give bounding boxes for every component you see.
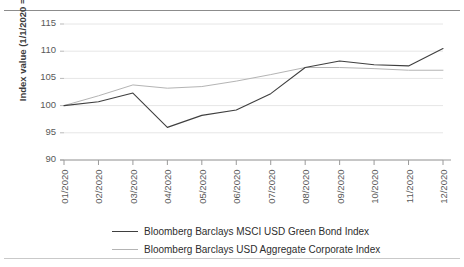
x-axis-tick-label-text: 03/2020 [127,170,138,222]
x-axis-tick-label: 05/2020 [196,170,207,222]
x-axis-tick-label: 03/2020 [127,170,138,222]
legend-line-icon [112,244,138,255]
x-axis-tick-label-text: 09/2020 [334,170,345,222]
x-axis-tick-label-text: 10/2020 [369,170,380,222]
series-line [64,68,443,106]
footer-divider [4,258,460,259]
x-axis-tick-label-text: 12/2020 [438,170,449,222]
x-axis-tick-label-text: 01/2020 [59,170,70,222]
x-axis-tick-label: 12/2020 [438,170,449,222]
x-axis-tick-label: 06/2020 [231,170,242,222]
x-axis-tick-label: 08/2020 [300,170,311,222]
x-axis-tick-label: 10/2020 [369,170,380,222]
legend-line-icon [112,226,138,237]
x-axis-tick-label: 09/2020 [334,170,345,222]
legend-item-label: Bloomberg Barclays USD Aggregate Corpora… [144,244,380,255]
chart-legend: Bloomberg Barclays MSCI USD Green Bond I… [0,222,464,258]
series-lines [64,48,443,127]
x-axis-tick-label-text: 07/2020 [265,170,276,222]
x-axis-tick-label: 11/2020 [403,170,414,222]
x-axis-tick-label-text: 08/2020 [300,170,311,222]
x-axis-tick-label-text: 06/2020 [231,170,242,222]
x-axis-tick-label-text: 05/2020 [196,170,207,222]
x-axis-tick-label-text: 04/2020 [162,170,173,222]
x-axis-tick-label: 01/2020 [59,170,70,222]
legend-item-label: Bloomberg Barclays MSCI USD Green Bond I… [144,226,369,237]
chart-figure: Index value (1/1/2020 = 100) 90951001051… [0,0,464,267]
legend-item[interactable]: Bloomberg Barclays USD Aggregate Corpora… [0,240,464,258]
x-axis-tick-label: 07/2020 [265,170,276,222]
x-axis-tick-label: 04/2020 [162,170,173,222]
x-axis-tick-label-text: 11/2020 [403,170,414,222]
x-axis-tick-label-text: 02/2020 [93,170,104,222]
x-axis-tick-marks [64,160,443,165]
gridlines [60,24,443,160]
x-axis-tick-label: 02/2020 [93,170,104,222]
legend-item[interactable]: Bloomberg Barclays MSCI USD Green Bond I… [0,222,464,240]
series-line [64,48,443,127]
